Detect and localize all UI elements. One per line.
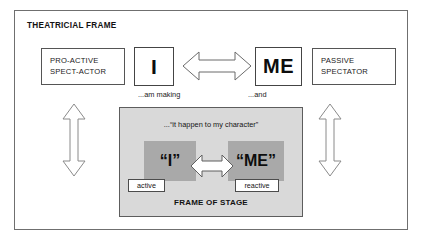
double-headed-horizontal-arrow-icon-stage xyxy=(190,153,234,179)
pill-active: active xyxy=(128,179,165,192)
stage-block-i: “I” xyxy=(144,141,196,181)
double-headed-vertical-arrow-icon-right xyxy=(318,103,342,177)
passive-line-2: SPECTATOR xyxy=(321,67,395,78)
caption-and: ...and xyxy=(248,90,267,99)
stage-quote-text: ...“it happen to my character” xyxy=(120,120,302,129)
double-headed-horizontal-arrow-icon xyxy=(182,49,252,83)
pro-active-line-1: PRO-ACTIVE xyxy=(50,56,124,67)
double-headed-vertical-arrow-icon-left xyxy=(62,103,86,177)
letter-i-box: I xyxy=(134,47,174,86)
passive-spectator-box: PASSIVE SPECTATOR xyxy=(312,48,396,85)
theatrical-frame-diagram: THEATRICIAL FRAME PRO-ACTIVE SPECT-ACTOR… xyxy=(0,0,424,242)
diagram-title: THEATRICIAL FRAME xyxy=(27,21,116,30)
frame-of-stage-label: FRAME OF STAGE xyxy=(120,198,302,207)
caption-am-making: ...am making xyxy=(138,90,180,99)
pro-active-spect-actor-box: PRO-ACTIVE SPECT-ACTOR xyxy=(41,48,125,85)
pill-reactive: reactive xyxy=(235,179,279,192)
letter-me-box: ME xyxy=(255,47,302,86)
stage-block-me: “ME” xyxy=(228,141,284,181)
pro-active-line-2: SPECT-ACTOR xyxy=(50,67,124,78)
passive-line-1: PASSIVE xyxy=(321,56,395,67)
